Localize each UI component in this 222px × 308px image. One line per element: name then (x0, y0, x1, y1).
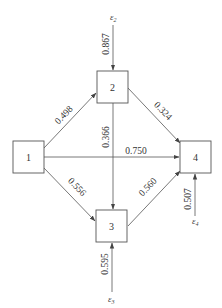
label-2-4: 0.324 (152, 100, 174, 123)
node-4: 4 (180, 141, 211, 173)
label-3-4: 0.560 (137, 176, 159, 199)
label-2-3: 0.366 (101, 126, 111, 148)
svg-text:4: 4 (193, 152, 198, 163)
node-3: 3 (96, 210, 127, 242)
path-diagram: 1 2 3 4 0.498 0.750 0.556 0.324 0.366 0.… (0, 0, 222, 308)
label-e3-3: 0.595 (100, 253, 110, 275)
svg-text:2: 2 (110, 82, 115, 93)
label-e4-4: 0.507 (183, 188, 193, 210)
label-1-2: 0.498 (53, 104, 75, 127)
edge-1-3 (44, 168, 95, 221)
node-1: 1 (13, 141, 44, 173)
node-2: 2 (97, 71, 128, 103)
label-1-4: 0.750 (125, 146, 147, 156)
label-e2-2: 0.867 (101, 33, 111, 55)
error-e4: ε4 (192, 216, 199, 227)
edge-1-2 (44, 93, 96, 148)
error-e3: ε3 (108, 294, 115, 305)
svg-text:1: 1 (26, 152, 31, 163)
error-e2: ε2 (110, 12, 117, 23)
svg-text:3: 3 (109, 221, 114, 232)
